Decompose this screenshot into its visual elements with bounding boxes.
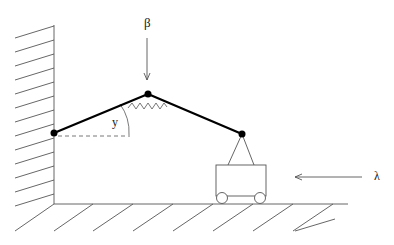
left-link (54, 94, 148, 133)
ground (15, 204, 348, 231)
right-link (148, 94, 242, 134)
top-load-arrow (144, 38, 150, 80)
cart-joint (239, 131, 246, 138)
links (54, 94, 242, 134)
top-joint (145, 91, 152, 98)
mechanism-diagram: β y λ (0, 0, 394, 245)
wall-joint (51, 130, 58, 137)
angle-arc (120, 104, 129, 135)
torsion-spring (128, 103, 167, 109)
cart (216, 134, 266, 204)
joints (51, 91, 246, 138)
side-load-arrow (295, 174, 362, 180)
wall (15, 25, 54, 206)
lambda-label: λ (374, 169, 380, 183)
angle-label: y (112, 115, 118, 129)
beta-label: β (144, 15, 151, 30)
